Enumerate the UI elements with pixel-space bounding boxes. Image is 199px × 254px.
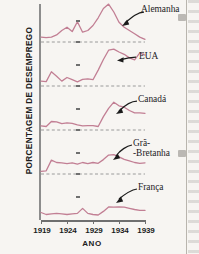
ytick-mark-25-eua: [76, 64, 80, 66]
ytick-mark-25-alemanha: [76, 20, 80, 22]
series-label-alemanha: Alemanha: [141, 5, 180, 15]
panel-stack: 25 0 Alemanha 25 0 EUA: [0, 0, 186, 254]
chart-figure: PORCENTAGEM DE DESEMPREGO ANO 25 0 Alema…: [0, 0, 199, 254]
ytick-mark-25-franca: [76, 196, 80, 198]
xtick-mark-1939: [145, 220, 146, 224]
page-bleed-smudge: [178, 14, 186, 21]
xtick-label-1934: 1934: [107, 226, 133, 235]
xtick-mark-1929: [93, 220, 94, 224]
xtick-mark-1919: [41, 220, 42, 224]
series-label-eua: EUA: [139, 52, 158, 62]
series-label-gra-bretanha-line2: -Bretanha: [133, 149, 170, 159]
arrow-gra-bretanha: [110, 143, 134, 162]
ytick-mark-0-gra-bretanha: [76, 173, 80, 175]
ytick-mark-0-eua: [76, 85, 80, 87]
series-label-canada: Canadá: [138, 95, 166, 105]
series-label-franca: França: [138, 183, 164, 193]
arrow-franca: [113, 187, 139, 205]
arrow-eua: [114, 54, 138, 66]
ytick-mark-0-canada: [76, 129, 80, 131]
ytick-mark-0-alemanha: [76, 41, 80, 43]
page-edge-rule: [186, 0, 187, 254]
series-label-franca-line1: França: [138, 182, 164, 192]
page-bleed-column: [188, 0, 199, 254]
xtick-label-1924: 1924: [55, 226, 81, 235]
xtick-label-1929: 1929: [81, 226, 107, 235]
xtick-mark-1924: [67, 220, 68, 224]
ytick-mark-25-gra-bretanha: [76, 152, 80, 154]
series-label-gra-bretanha: Grã- -Bretanha: [133, 139, 170, 158]
xtick-label-1919: 1919: [29, 226, 55, 235]
series-label-canada-line1: Canadá: [138, 94, 166, 104]
ytick-mark-25-canada: [76, 108, 80, 110]
series-label-eua-line1: EUA: [139, 51, 158, 61]
xtick-label-1939: 1939: [133, 226, 159, 235]
series-line-franca: [41, 207, 145, 215]
arrow-canada: [113, 99, 139, 116]
series-label-alemanha-line1: Alemanha: [141, 4, 180, 14]
xtick-mark-1934: [119, 220, 120, 224]
page-bleed-smudge: [178, 150, 186, 157]
